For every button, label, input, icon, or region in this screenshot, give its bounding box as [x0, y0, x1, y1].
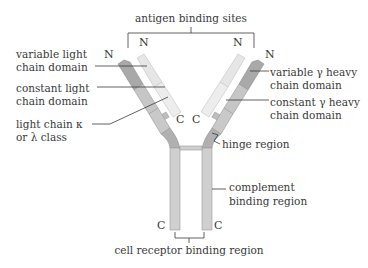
heavy-variable-domain-left	[118, 60, 143, 90]
label-variable-heavy-line1: variable γ heavy	[269, 66, 357, 78]
label-hinge-region: hinge region	[222, 138, 290, 150]
label-light-class-line1: light chain κ	[16, 118, 83, 130]
c-terminus-light-left: C	[176, 113, 184, 126]
label-variable-heavy-line2: chain domain	[270, 79, 342, 91]
n-terminus-heavy-right: N	[265, 48, 275, 61]
label-cell-receptor-binding-region: cell receptor binding region	[114, 244, 263, 256]
c-terminus-light-right: C	[192, 113, 200, 126]
label-constant-heavy-line1: constant γ heavy	[270, 96, 360, 108]
label-complement-line1: complement	[229, 181, 295, 193]
heavy-constant-domain-right	[224, 84, 248, 114]
n-terminus-heavy-left: N	[104, 48, 114, 61]
label-variable-light-line2: chain domain	[16, 61, 88, 73]
heavy-stem-right	[202, 148, 212, 230]
n-terminus-light-right: N	[233, 36, 243, 49]
label-complement-line2: binding region	[229, 195, 307, 207]
c-terminus-heavy-right: C	[214, 219, 222, 232]
heavy-variable-domain-right	[239, 60, 264, 90]
label-constant-light-line2: chain domain	[16, 95, 88, 107]
n-terminus-light-left: N	[139, 36, 149, 49]
cell-receptor-bracket	[175, 232, 204, 243]
label-constant-light-line1: constant light	[16, 82, 90, 94]
c-terminus-heavy-left: C	[157, 219, 165, 232]
heavy-chain-left	[118, 60, 180, 230]
label-variable-light-line1: variable light	[15, 48, 88, 60]
hinge-disulfide-bar	[180, 146, 202, 150]
heavy-constant-domain-left	[134, 84, 158, 114]
heavy-stem-left	[170, 148, 180, 230]
label-constant-heavy-line2: chain domain	[270, 109, 342, 121]
label-light-class-line2: or λ class	[16, 131, 67, 143]
antibody-diagram: antigen binding sites N N	[0, 0, 368, 268]
label-antigen-binding-sites: antigen binding sites	[135, 12, 247, 24]
